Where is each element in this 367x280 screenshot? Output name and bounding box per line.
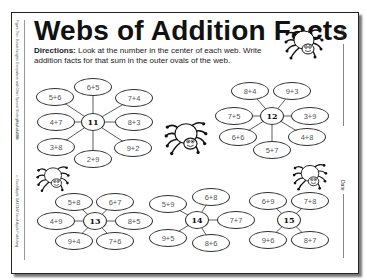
web-center-sum: 12	[260, 107, 284, 125]
web-oval[interactable]: 4+7	[37, 113, 75, 131]
web-oval[interactable]: 7+5	[215, 107, 253, 125]
web-oval[interactable]: 8+6	[192, 234, 230, 252]
spider-icon	[284, 26, 324, 60]
web-oval[interactable]: 3+8	[37, 138, 75, 156]
web-center-sum: 15	[277, 211, 301, 229]
web-center-sum: 13	[83, 212, 107, 230]
web-oval[interactable]: 7+8	[291, 192, 329, 210]
web-oval[interactable]: 8+4	[231, 82, 269, 100]
web-oval[interactable]: 9+4	[55, 232, 93, 250]
web-center-sum: 11	[81, 113, 105, 131]
web-oval[interactable]: 9+3	[273, 82, 311, 100]
web-oval[interactable]: 2+9	[74, 150, 112, 168]
web-oval[interactable]: 4+8	[288, 128, 326, 146]
web-oval[interactable]: 5+9	[149, 195, 187, 213]
web-oval[interactable]: 8+7	[291, 231, 329, 249]
web-oval[interactable]: 3+9	[291, 107, 329, 125]
web-oval[interactable]: 8+3	[115, 113, 153, 131]
web-oval[interactable]: 8+5	[115, 212, 153, 230]
web-oval[interactable]: 6+5	[74, 78, 112, 96]
web-oval[interactable]: 6+8	[192, 188, 230, 206]
web-center-sum: 14	[185, 211, 209, 229]
spider-icon	[164, 118, 208, 156]
web-oval[interactable]: 5+8	[55, 193, 93, 211]
spider-icon	[36, 163, 70, 193]
web-oval[interactable]: 6+6	[219, 128, 257, 146]
web-oval[interactable]: 9+5	[149, 229, 187, 247]
web-oval[interactable]: 5+7	[253, 141, 291, 159]
spider-icon	[292, 161, 328, 191]
web-oval[interactable]: 7+4	[115, 89, 153, 107]
web-oval[interactable]: 7+6	[96, 232, 134, 250]
web-oval[interactable]: 5+6	[36, 88, 74, 106]
web-oval[interactable]: 7+7	[217, 211, 255, 229]
web-oval[interactable]: 6+9	[249, 192, 287, 210]
web-oval[interactable]: 4+9	[37, 212, 75, 230]
web-oval[interactable]: 9+2	[114, 139, 152, 157]
web-oval[interactable]: 6+7	[96, 193, 134, 211]
web-oval[interactable]: 9+6	[249, 231, 287, 249]
